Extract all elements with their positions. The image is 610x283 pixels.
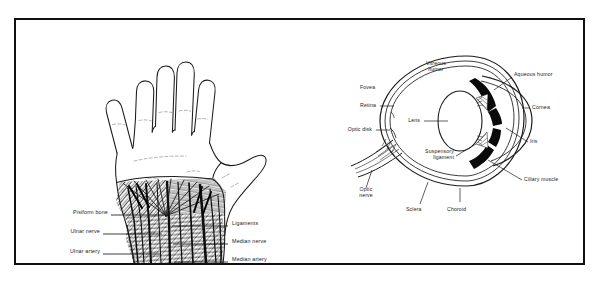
label-suspensory-ligament-line1: Suspensory (425, 148, 454, 154)
label-iris: Iris (530, 138, 538, 144)
label-optic-nerve: Optic nerve (346, 186, 386, 198)
label-suspensory-ligament-line2: ligament (433, 154, 454, 160)
hand-anatomy-panel: Pisiform bone Ulnar nerve Ulnar artery L… (16, 20, 316, 263)
label-suspensory-ligament: Suspensory ligament (404, 148, 454, 160)
label-retina: Retina (334, 102, 376, 108)
label-optic-disk: Optic disk (326, 126, 372, 132)
label-vitreous-humor: Vitreous humor (414, 60, 458, 72)
label-cornea: Cornea (532, 104, 550, 110)
eye-anatomy-panel: Vitreous humor Aqueous humor Fovea Retin… (316, 20, 587, 263)
label-vitreous-humor-line2: humor (428, 66, 443, 72)
label-choroid: Choroid (447, 206, 466, 212)
label-fovea: Fovea (360, 84, 375, 90)
figure-border-frame: Pisiform bone Ulnar nerve Ulnar artery L… (14, 18, 585, 265)
label-median-nerve: Median nerve (232, 238, 266, 244)
label-ligaments: Ligaments (232, 220, 258, 226)
label-median-artery: Median artery (232, 256, 267, 262)
label-pisiform-bone: Pisiform bone (32, 209, 108, 215)
label-optic-nerve-line2: nerve (359, 192, 373, 198)
label-sclera: Sclera (406, 206, 422, 212)
label-vitreous-humor-line1: Vitreous (426, 60, 446, 66)
label-ulnar-nerve: Ulnar nerve (26, 228, 100, 234)
label-aqueous-humor: Aqueous humor (514, 71, 553, 77)
label-ulnar-artery: Ulnar artery (26, 248, 100, 254)
label-optic-nerve-line1: Optic (360, 186, 373, 192)
label-lens: Lens (390, 117, 420, 123)
label-ciliary-muscle: Ciliary muscle (524, 176, 558, 182)
anatomy-figure-root: Pisiform bone Ulnar nerve Ulnar artery L… (0, 0, 610, 283)
eye-illustration (316, 20, 587, 263)
hand-illustration (16, 20, 316, 263)
